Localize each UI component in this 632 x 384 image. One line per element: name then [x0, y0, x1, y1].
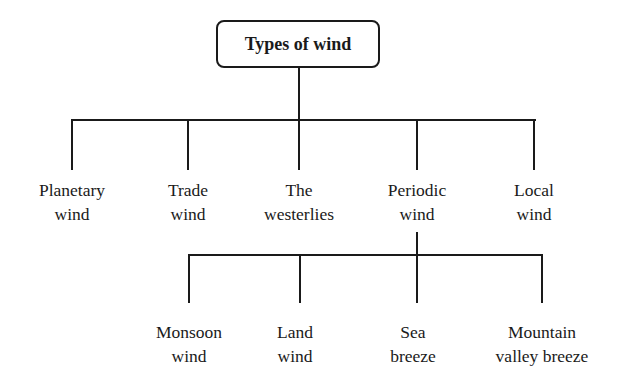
connector-local: [533, 119, 535, 170]
node-label-line1: Local: [464, 178, 604, 202]
root-node-types-of-wind: Types of wind: [216, 20, 380, 68]
connector-level2-bus: [188, 254, 543, 256]
node-label-line2: valley breeze: [472, 344, 612, 368]
connector-trade: [187, 119, 189, 170]
connector-planetary: [71, 119, 73, 170]
node-label-line1: Mountain: [472, 320, 612, 344]
node-local-wind: Local wind: [464, 178, 604, 226]
connector-root-down: [298, 68, 300, 120]
node-label-line1: Sea: [343, 320, 483, 344]
node-sea-breeze: Sea breeze: [343, 320, 483, 368]
connector-mountain: [541, 254, 543, 303]
root-label: Types of wind: [245, 34, 352, 55]
node-mountain-valley-breeze: Mountain valley breeze: [472, 320, 612, 368]
connector-periodic: [416, 119, 418, 170]
connector-land: [299, 254, 301, 303]
connector-periodic-down: [416, 232, 418, 256]
connector-sea: [416, 254, 418, 303]
node-label-line2: wind: [464, 202, 604, 226]
connector-monsoon: [188, 254, 190, 303]
node-label-line2: breeze: [343, 344, 483, 368]
connector-westerlies: [298, 119, 300, 170]
connector-level1-bus: [71, 119, 536, 121]
